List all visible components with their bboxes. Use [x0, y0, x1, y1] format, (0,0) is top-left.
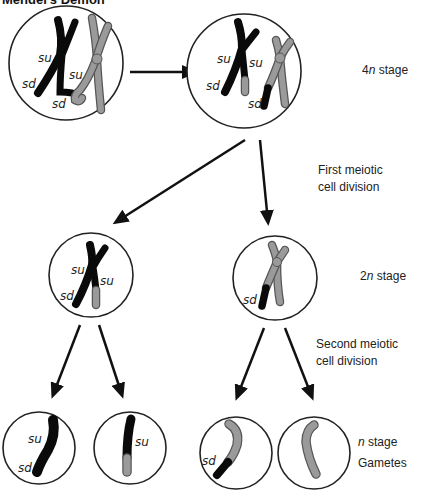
svg-text:sd: sd — [202, 454, 216, 468]
label-n-stage-gametes: n stage Gametes — [358, 432, 407, 474]
svg-text:sd: sd — [248, 97, 262, 111]
arrow-first-division-right — [260, 140, 268, 222]
arrow-second-division-ll — [53, 325, 80, 395]
gamete-4 — [278, 417, 350, 489]
svg-text:su: su — [69, 68, 83, 82]
svg-text:su: su — [38, 51, 52, 65]
svg-text:sd: sd — [18, 461, 32, 475]
cell-4n-initial: su sd su sd — [9, 6, 123, 120]
gamete-1: su sd — [3, 412, 75, 484]
arrow-second-division-rl — [237, 328, 264, 397]
svg-text:su: su — [135, 435, 149, 449]
label-2n-stage: 2n stage — [360, 268, 406, 285]
svg-text:su: su — [71, 263, 85, 277]
label-4n-stage: 4n stage — [362, 62, 408, 79]
label-first-meiotic-division: First meiotic cell division — [318, 162, 383, 196]
cell-2n-left: su su sd — [49, 233, 133, 317]
cell-4n-paired: su su sd sd — [187, 14, 301, 128]
arrow-first-division-left — [116, 140, 245, 222]
svg-text:sd: sd — [243, 293, 257, 307]
gamete-2: su — [94, 412, 166, 484]
svg-text:sd: sd — [206, 79, 220, 93]
svg-text:su: su — [249, 56, 263, 70]
meiosis-diagram: su sd su sd su su sd sd su su sd — [0, 0, 422, 490]
svg-text:su: su — [217, 52, 231, 66]
gamete-3: sd — [200, 417, 272, 489]
arrow-second-division-lr — [99, 325, 122, 395]
svg-text:su: su — [100, 274, 114, 288]
cell-2n-right: sd — [233, 236, 317, 320]
svg-text:sd: sd — [22, 77, 36, 91]
arrow-second-division-rr — [285, 328, 312, 397]
label-second-meiotic-division: Second meiotic cell division — [316, 336, 398, 370]
svg-text:sd: sd — [52, 97, 66, 111]
svg-text:su: su — [28, 432, 42, 446]
svg-text:sd: sd — [60, 289, 74, 303]
